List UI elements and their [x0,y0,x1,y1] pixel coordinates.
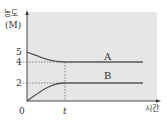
y-axis-label: 농도 [4,9,18,19]
series-b-label: B [104,71,111,81]
chart: 농도 (M) 5 4 2 0 t A B 시간 [0,0,167,124]
y-tick-4: 4 [16,57,22,67]
chart-plot [0,0,167,124]
series-a-label: A [104,52,111,62]
origin-label: 0 [19,106,25,116]
x-axis-arrow-icon [156,99,161,102]
y-tick-2: 2 [16,78,22,88]
y-tick-5: 5 [16,47,22,57]
y-axis-unit: (M) [5,20,21,30]
x-tick-t: t [63,106,67,116]
x-axis-label: 시간 [145,104,159,114]
